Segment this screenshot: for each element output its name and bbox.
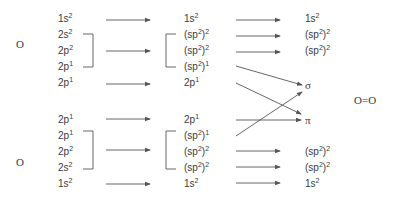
sigma-arrow-top xyxy=(236,66,302,85)
connector-lines xyxy=(0,0,396,199)
hybrid-bracket-bottom xyxy=(166,131,176,169)
pi-arrow-top xyxy=(236,83,301,114)
ground-bracket-top xyxy=(83,34,93,67)
hybrid-bracket-top xyxy=(166,34,176,67)
ground-bracket-bottom xyxy=(83,131,93,169)
